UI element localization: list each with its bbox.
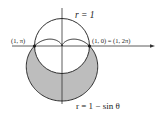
right-intersection-point [88, 44, 91, 47]
cardioid-label: r = 1 − sin θ [76, 101, 120, 111]
circle-label: r = 1 [75, 10, 95, 20]
axis-arrow-icon [150, 44, 155, 48]
left-point-label: (1, π) [11, 37, 25, 45]
left-intersection-point [33, 44, 36, 47]
polar-diagram: r = 1 (1, π) (1, 0) = (1, 2π) r = 1 − si… [0, 0, 160, 120]
right-point-label: (1, 0) = (1, 2π) [92, 37, 130, 45]
